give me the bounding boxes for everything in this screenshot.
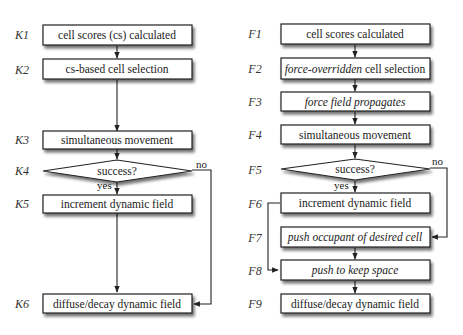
step-id-k4: K4 xyxy=(14,164,29,178)
connector-k4-no-k6 xyxy=(192,170,211,304)
step-id-f5: F5 xyxy=(247,163,261,177)
f6-text: increment dynamic field xyxy=(299,197,412,210)
right-flowchart: cell scores calculated force-overridden … xyxy=(247,24,447,313)
f3-text: force field propagates xyxy=(305,96,406,109)
step-id-f4: F4 xyxy=(247,128,261,142)
k1-text: cell scores (cs) calculated xyxy=(58,29,176,42)
f2-text: force-overridden cell selection xyxy=(285,63,426,76)
k6-text: diffuse/decay dynamic field xyxy=(53,298,181,311)
step-id-k3: K3 xyxy=(14,133,29,147)
f7-text: push occupant of desired cell xyxy=(287,231,422,244)
step-id-f3: F3 xyxy=(247,95,261,109)
step-id-f6: F6 xyxy=(247,197,261,211)
f8-text: push to keep space xyxy=(311,264,399,277)
f9-text: diffuse/decay dynamic field xyxy=(291,298,419,311)
step-id-f1: F1 xyxy=(247,27,261,41)
k4-no-label: no xyxy=(196,158,208,170)
step-id-k6: K6 xyxy=(14,297,29,311)
f4-text: simultaneous movement xyxy=(299,129,412,141)
f5-yes-label: yes xyxy=(334,179,349,191)
step-id-f2: F2 xyxy=(247,62,261,76)
k2-text: cs-based cell selection xyxy=(66,63,169,75)
left-flowchart: cell scores (cs) calculated cs-based cel… xyxy=(14,25,211,313)
step-id-k5: K5 xyxy=(14,197,29,211)
step-id-f7: F7 xyxy=(247,231,262,245)
k5-text: increment dynamic field xyxy=(61,198,174,211)
connector-f5-no-f7 xyxy=(430,168,447,237)
k3-text: simultaneous movement xyxy=(61,134,174,146)
f2-text-italic: force-overridden xyxy=(285,63,363,76)
step-id-k1: K1 xyxy=(14,28,29,42)
step-id-f8: F8 xyxy=(247,264,261,278)
k4-text: success? xyxy=(97,165,137,177)
connector-f6-f8 xyxy=(268,203,280,270)
step-id-k2: K2 xyxy=(14,63,29,77)
f1-text: cell scores calculated xyxy=(306,28,404,40)
flowchart-canvas: cell scores (cs) calculated cs-based cel… xyxy=(0,0,463,335)
f2-text-rest: cell selection xyxy=(362,63,425,75)
f5-no-label: no xyxy=(432,155,444,167)
k4-yes-label: yes xyxy=(97,179,112,191)
f5-text: success? xyxy=(335,163,375,175)
step-id-f9: F9 xyxy=(247,297,261,311)
